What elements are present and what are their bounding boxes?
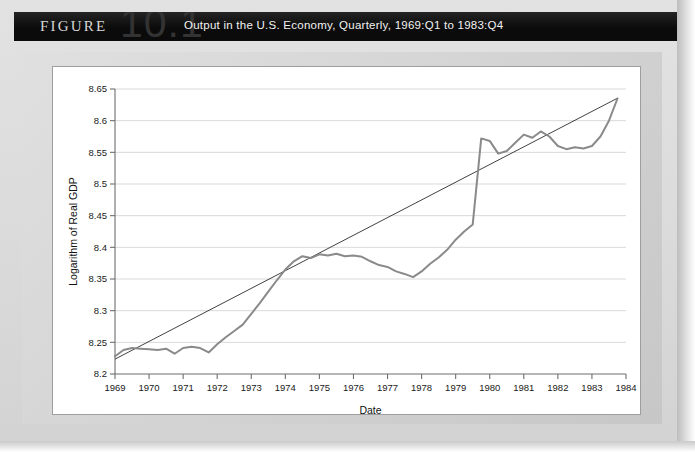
chart-plot-area: 8.28.258.38.358.48.458.58.558.68.65 1969… bbox=[53, 67, 642, 416]
y-tick-label: 8.2 bbox=[94, 368, 107, 379]
page-edge-bottom bbox=[0, 441, 695, 452]
x-tick-label: 1971 bbox=[173, 382, 194, 393]
y-tick-label: 8.4 bbox=[94, 242, 107, 253]
y-tick-label: 8.55 bbox=[89, 147, 108, 158]
x-tick-label: 1972 bbox=[207, 382, 228, 393]
trend-line bbox=[115, 98, 617, 359]
y-tick-label: 8.3 bbox=[94, 305, 107, 316]
x-tick-label: 1977 bbox=[377, 382, 398, 393]
y-tick-label: 8.5 bbox=[94, 178, 107, 189]
x-tick-label: 1975 bbox=[309, 382, 330, 393]
x-tick-label: 1974 bbox=[275, 382, 296, 393]
x-tick-label: 1970 bbox=[138, 382, 159, 393]
chart-card: 8.28.258.38.358.48.458.58.558.68.65 1969… bbox=[52, 66, 641, 415]
x-tick-label: 1976 bbox=[343, 382, 364, 393]
figure-banner: FIGURE 10.1 Output in the U.S. Economy, … bbox=[14, 12, 677, 41]
x-tick-label: 1984 bbox=[615, 382, 636, 393]
x-tick-label: 1982 bbox=[547, 382, 568, 393]
x-tick-label: 1973 bbox=[241, 382, 262, 393]
y-tick-label: 8.6 bbox=[94, 115, 107, 126]
x-tick-label: 1983 bbox=[581, 382, 602, 393]
y-tick-label: 8.25 bbox=[89, 337, 108, 348]
x-tick-label: 1978 bbox=[411, 382, 432, 393]
figure-page: FIGURE 10.1 Output in the U.S. Economy, … bbox=[0, 0, 695, 452]
line-chart: 8.28.258.38.358.48.458.58.558.68.65 1969… bbox=[53, 67, 642, 416]
y-tick-label: 8.65 bbox=[89, 83, 108, 94]
x-tick-label: 1981 bbox=[513, 382, 534, 393]
x-axis-label: Date bbox=[359, 404, 381, 416]
page-edge-right bbox=[677, 0, 695, 441]
y-tick-label: 8.35 bbox=[89, 273, 108, 284]
y-axis-ticks: 8.28.258.38.358.48.458.58.558.68.65 bbox=[89, 83, 116, 379]
figure-title: Output in the U.S. Economy, Quarterly, 1… bbox=[184, 19, 503, 31]
y-tick-label: 8.45 bbox=[89, 210, 108, 221]
x-axis-ticks: 1969197019711972197319741975197619771978… bbox=[104, 374, 636, 393]
x-tick-label: 1979 bbox=[445, 382, 466, 393]
x-tick-label: 1980 bbox=[479, 382, 500, 393]
figure-label: FIGURE bbox=[40, 18, 107, 35]
x-tick-label: 1969 bbox=[104, 382, 125, 393]
gridlines bbox=[115, 89, 626, 342]
y-axis-label: Logarithm of Real GDP bbox=[67, 177, 79, 286]
